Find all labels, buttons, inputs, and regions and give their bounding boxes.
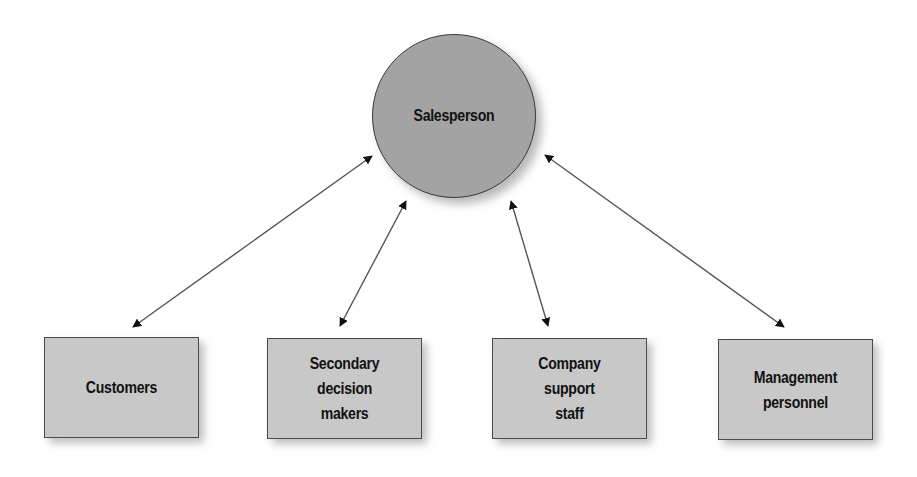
diagram-canvas: Salesperson Customers Secondary decision… bbox=[0, 0, 917, 477]
arrow-secondary-decision-makers bbox=[340, 201, 406, 326]
node-company-support-staff: Company support staff bbox=[492, 338, 647, 439]
node-management-personnel: Management personnel bbox=[718, 339, 873, 440]
node-label: Customers bbox=[86, 375, 157, 400]
arrow-management-personnel bbox=[545, 155, 784, 327]
hub-label: Salesperson bbox=[414, 107, 495, 125]
node-secondary-decision-makers: Secondary decision makers bbox=[267, 338, 422, 439]
arrow-customers bbox=[133, 156, 372, 327]
node-customers: Customers bbox=[44, 337, 199, 438]
arrow-company-support-staff bbox=[511, 201, 548, 326]
node-label: Secondary decision makers bbox=[310, 351, 380, 426]
node-label: Company support staff bbox=[538, 351, 600, 426]
salesperson-hub: Salesperson bbox=[372, 34, 536, 198]
node-label: Management personnel bbox=[754, 365, 837, 415]
